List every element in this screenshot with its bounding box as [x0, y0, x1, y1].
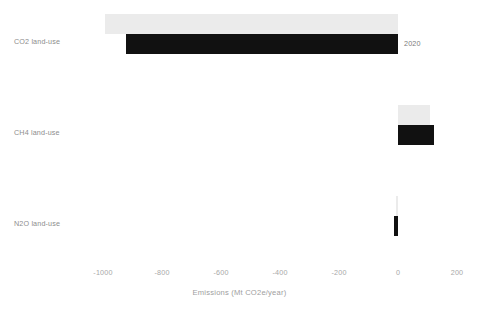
x-tick-label-0: 0	[396, 269, 400, 276]
bar-co2-light[interactable]	[105, 14, 398, 34]
x-tick-label--400: -400	[272, 269, 287, 276]
plot-area: CO2 land-use 2020 CH4 land-use N2O land-…	[0, 0, 479, 265]
bar-n2o-light[interactable]	[396, 196, 398, 216]
x-tick-label--600: -600	[213, 269, 228, 276]
category-label-co2: CO2 land-use	[14, 38, 60, 45]
category-label-n2o: N2O land-use	[14, 220, 60, 227]
x-tick-label--200: -200	[331, 269, 346, 276]
bar-group-co2: CO2 land-use 2020	[0, 14, 479, 90]
bar-group-n2o: N2O land-use	[0, 196, 479, 272]
bar-ch4-dark[interactable]	[398, 125, 434, 145]
x-tick-label--1000: -1000	[93, 269, 112, 276]
emissions-bar-chart: CO2 land-use 2020 CH4 land-use N2O land-…	[0, 0, 479, 318]
bar-n2o-dark[interactable]	[394, 216, 398, 236]
x-tick-label--800: -800	[154, 269, 169, 276]
x-axis: -1000 -800 -600 -400 -200 0 200 Emission…	[0, 265, 479, 318]
category-label-ch4: CH4 land-use	[14, 129, 60, 136]
x-axis-title: Emissions (Mt CO2e/year)	[0, 289, 479, 297]
bar-group-ch4: CH4 land-use	[0, 105, 479, 181]
bar-co2-dark[interactable]	[126, 34, 398, 54]
x-tick-label-200: 200	[451, 269, 464, 276]
series-tag-co2-dark: 2020	[404, 40, 421, 47]
bar-ch4-light[interactable]	[398, 105, 430, 125]
